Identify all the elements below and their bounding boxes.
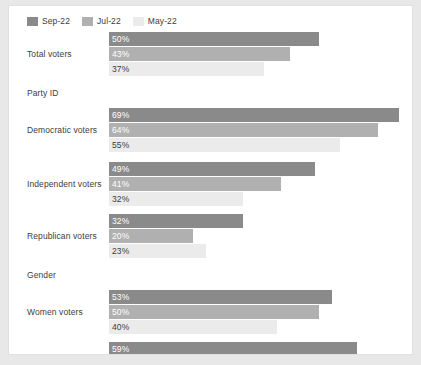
legend-swatch-icon: [133, 17, 144, 26]
category-label: Independent voters: [27, 179, 102, 189]
section-header-gender: Gender: [27, 270, 56, 280]
bar-jul-22[interactable]: [109, 123, 378, 137]
bar-sep-22[interactable]: [109, 32, 319, 46]
category-label: Women voters: [27, 307, 83, 317]
bar-value-label: 55%: [112, 138, 129, 152]
bar-jul-22[interactable]: [109, 305, 319, 319]
bar-value-label: 64%: [112, 123, 129, 137]
bar-sep-22[interactable]: [109, 290, 332, 304]
legend-label: Jul-22: [97, 16, 121, 26]
legend-label: Sep-22: [42, 16, 70, 26]
legend-item-sep-22[interactable]: Sep-22: [27, 16, 70, 26]
bar-value-label: 69%: [112, 108, 129, 122]
bar-value-label: 50%: [112, 32, 129, 46]
bar-value-label: 40%: [112, 320, 129, 334]
legend-label: May-22: [148, 16, 177, 26]
legend-swatch-icon: [27, 17, 38, 26]
bar-value-label: 50%: [112, 305, 129, 319]
category-label: Republican voters: [27, 231, 97, 241]
section-header-party-id: Party ID: [27, 88, 59, 98]
bar-value-label: 23%: [112, 244, 129, 258]
chart-plot-area: Total voters 50% 43% 37% Party ID Dem: [9, 32, 413, 354]
bar-sep-22[interactable]: [109, 342, 357, 355]
bar-value-label: 49%: [112, 162, 129, 176]
bar-value-label: 32%: [112, 214, 129, 228]
bar-value-label: 37%: [112, 62, 129, 76]
category-label: Total voters: [27, 49, 72, 59]
bar-sep-22[interactable]: [109, 162, 315, 176]
bar-value-label: 59%: [112, 342, 129, 355]
bar-may-22[interactable]: [109, 138, 340, 152]
bar-may-22[interactable]: [109, 320, 277, 334]
bar-value-label: 32%: [112, 192, 129, 206]
bar-value-label: 41%: [112, 177, 129, 191]
legend-item-may-22[interactable]: May-22: [133, 16, 177, 26]
bar-jul-22[interactable]: [109, 177, 281, 191]
chart-legend: Sep-22 Jul-22 May-22: [27, 15, 177, 27]
bar-value-label: 53%: [112, 290, 129, 304]
bar-may-22[interactable]: [109, 62, 264, 76]
bar-sep-22[interactable]: [109, 108, 399, 122]
category-label: Democratic voters: [27, 125, 97, 135]
chart-card: Sep-22 Jul-22 May-22 Total voters 50% 43…: [8, 5, 413, 355]
legend-item-jul-22[interactable]: Jul-22: [82, 16, 121, 26]
legend-swatch-icon: [82, 17, 93, 26]
bar-value-label: 43%: [112, 47, 129, 61]
bar-value-label: 20%: [112, 229, 129, 243]
bar-jul-22[interactable]: [109, 47, 290, 61]
